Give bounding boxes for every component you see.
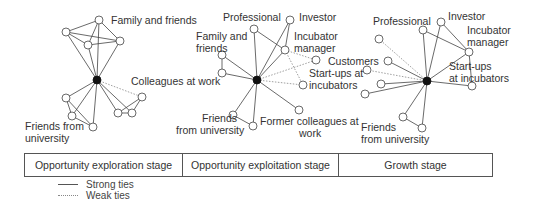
- legend-weak-label: Weak ties: [86, 190, 130, 201]
- weak-tie-swatch: [58, 195, 78, 196]
- label-friends-uni-1: Friends: [361, 121, 396, 133]
- label-friends-uni-2: from university: [361, 133, 429, 145]
- label-incubator-2: manager: [294, 42, 335, 54]
- stage-growth: Growth stage: [338, 154, 492, 176]
- label-investor: Investor: [299, 11, 336, 23]
- label-customers: Customers: [328, 55, 379, 67]
- label-incubator-2: manager: [467, 36, 508, 48]
- label-professional: Professional: [373, 15, 431, 27]
- legend-strong-label: Strong ties: [86, 179, 134, 190]
- label-professional: Professional: [223, 11, 281, 23]
- label-former-1: Former colleagues at: [260, 115, 359, 127]
- strong-tie-swatch: [58, 184, 78, 185]
- stage-exploration: Opportunity exploration stage: [25, 154, 182, 176]
- label-startups-1: Start-ups: [449, 60, 492, 72]
- stage-exploitation: Opportunity exploitation stage: [182, 154, 338, 176]
- legend: Strong ties Weak ties: [58, 179, 134, 201]
- label-family-1: Family and: [196, 30, 247, 42]
- label-startups-2: incubators: [309, 79, 357, 91]
- label-family-friends: Family and friends: [111, 14, 197, 26]
- label-investor: Investor: [448, 10, 485, 22]
- label-former-2: work: [299, 127, 321, 139]
- label-startups-2: at incubators: [449, 72, 509, 84]
- label-friends-uni-2: university: [25, 132, 69, 144]
- label-incubator-1: Incubator: [294, 30, 338, 42]
- label-friends-uni-2: from university: [176, 124, 244, 136]
- label-friends-uni-1: Friends: [202, 112, 237, 124]
- label-colleagues: Colleagues at work: [131, 75, 220, 87]
- label-incubator-1: Incubator: [467, 24, 511, 36]
- label-startups-1: Start-ups at: [309, 67, 363, 79]
- stage-row: Opportunity exploration stage Opportunit…: [24, 153, 493, 177]
- label-family-2: friends: [196, 42, 228, 54]
- label-friends-uni-1: Friends from: [25, 120, 84, 132]
